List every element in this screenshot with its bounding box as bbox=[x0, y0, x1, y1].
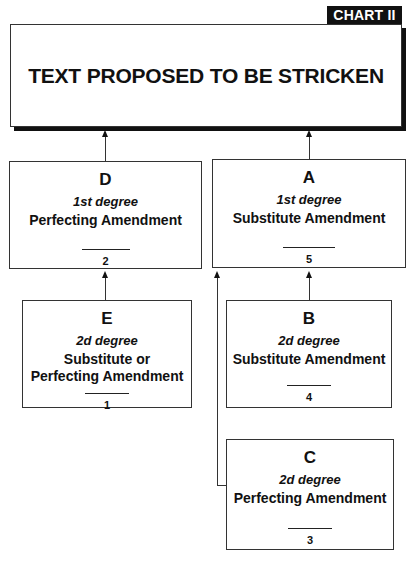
amendment-box-d: D 1st degree Perfecting Amendment 2 bbox=[9, 161, 202, 269]
divider bbox=[85, 393, 129, 394]
box-degree: 2d degree bbox=[227, 471, 393, 488]
box-degree: 1st degree bbox=[213, 191, 405, 208]
box-kind: Substitute Amendment bbox=[227, 351, 391, 368]
connector-d-main bbox=[105, 134, 106, 161]
box-degree: 1st degree bbox=[10, 193, 201, 210]
box-letter: A bbox=[213, 168, 405, 188]
connector-c-a-horizontal bbox=[217, 485, 226, 486]
amendment-box-b: B 2d degree Substitute Amendment 4 bbox=[226, 300, 392, 408]
box-degree: 2d degree bbox=[227, 332, 391, 349]
arrow-up-icon bbox=[306, 271, 312, 278]
arrow-up-icon bbox=[306, 130, 312, 137]
amendment-box-e: E 2d degree Substitute or Perfecting Ame… bbox=[22, 300, 192, 408]
vote-order: 1 bbox=[23, 398, 191, 412]
box-degree: 2d degree bbox=[23, 332, 191, 349]
box-kind: Substitute Amendment bbox=[213, 210, 405, 227]
box-letter: C bbox=[227, 448, 393, 468]
text-to-be-stricken-box: TEXT PROPOSED TO BE STRICKEN bbox=[10, 24, 402, 127]
divider bbox=[288, 528, 332, 529]
arrow-up-icon bbox=[214, 271, 220, 278]
main-title: TEXT PROPOSED TO BE STRICKEN bbox=[28, 64, 384, 88]
amendment-box-c: C 2d degree Perfecting Amendment 3 bbox=[226, 439, 394, 550]
vote-order: 4 bbox=[227, 390, 391, 404]
box-letter: D bbox=[10, 170, 201, 190]
connector-c-a bbox=[217, 276, 218, 486]
connector-e-d bbox=[105, 276, 106, 300]
vote-order: 5 bbox=[213, 252, 405, 266]
connector-a-main bbox=[309, 134, 310, 159]
arrow-up-icon bbox=[102, 271, 108, 278]
box-kind: Substitute or Perfecting Amendment bbox=[23, 351, 191, 385]
box-letter: B bbox=[227, 309, 391, 329]
amendment-box-a: A 1st degree Substitute Amendment 5 bbox=[212, 159, 406, 268]
box-kind: Perfecting Amendment bbox=[227, 490, 393, 507]
divider bbox=[287, 385, 331, 386]
arrow-up-icon bbox=[102, 130, 108, 137]
vote-order: 3 bbox=[227, 533, 393, 547]
box-letter: E bbox=[23, 309, 191, 329]
divider bbox=[283, 247, 335, 248]
box-kind: Perfecting Amendment bbox=[10, 212, 201, 229]
divider bbox=[82, 249, 130, 250]
vote-order: 2 bbox=[10, 254, 201, 268]
chart-label: CHART II bbox=[327, 6, 402, 24]
connector-b-a bbox=[309, 276, 310, 300]
